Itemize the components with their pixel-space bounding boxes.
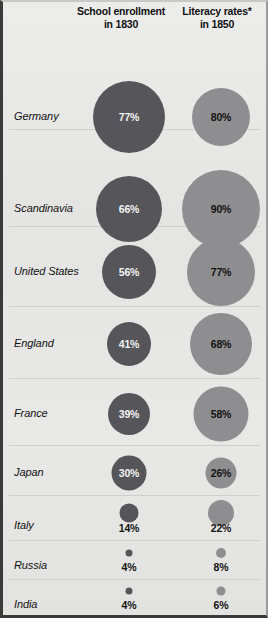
chart-row: India4%6% (3, 580, 266, 617)
enrollment-bubble (120, 504, 139, 523)
enrollment-value: 77% (119, 111, 139, 123)
chart-row: France39%58% (3, 379, 266, 446)
country-label: India (14, 598, 37, 610)
country-label: France (14, 407, 48, 419)
literacy-bubble (216, 548, 226, 558)
chart-row: United States56%77% (3, 227, 266, 307)
literacy-value: 26% (211, 467, 231, 479)
literacy-value: 77% (211, 266, 231, 278)
bubble-chart: School enrollment in 1830 Literacy rates… (0, 0, 268, 618)
literacy-value: 8% (214, 561, 229, 573)
country-label: Russia (14, 559, 47, 571)
chart-row: Japan30%26% (3, 446, 266, 496)
chart-row: Italy14%22% (3, 496, 266, 541)
column-header-school-enrollment-line2: in 1830 (75, 18, 167, 31)
literacy-value: 80% (211, 111, 231, 123)
enrollment-value: 30% (119, 467, 139, 479)
chart-row: England41%68% (3, 307, 266, 379)
literacy-value: 6% (214, 599, 229, 611)
country-label: Japan (14, 466, 43, 478)
enrollment-value: 39% (119, 408, 139, 420)
enrollment-value: 4% (122, 561, 137, 573)
enrollment-bubble (126, 550, 133, 557)
enrollment-value: 41% (119, 338, 139, 350)
literacy-bubble (217, 587, 226, 596)
column-header-literacy-rates-line1: Literacy rates* (182, 5, 251, 17)
country-label: United States (14, 265, 79, 277)
column-header-school-enrollment: School enrollment in 1830 (75, 5, 167, 30)
literacy-value: 90% (211, 203, 231, 215)
enrollment-value: 4% (122, 599, 137, 611)
country-label: Italy (14, 519, 34, 531)
country-label: England (14, 337, 54, 349)
literacy-value: 58% (211, 408, 231, 420)
column-header-literacy-rates: Literacy rates* in 1850 (171, 5, 263, 30)
literacy-value: 68% (211, 338, 231, 350)
chart-row: Scandinavia66%90% (3, 130, 266, 227)
chart-row: Germany77%80% (3, 36, 266, 130)
literacy-value: 22% (211, 522, 231, 534)
column-header-literacy-rates-line2: in 1850 (171, 18, 263, 31)
country-label: Germany (14, 110, 59, 122)
chart-header: School enrollment in 1830 Literacy rates… (3, 2, 266, 36)
enrollment-value: 66% (119, 203, 139, 215)
country-label: Scandinavia (14, 202, 73, 214)
chart-row: Russia4%8% (3, 541, 266, 580)
column-header-school-enrollment-line1: School enrollment (77, 5, 165, 17)
enrollment-value: 14% (119, 522, 139, 534)
enrollment-value: 56% (119, 266, 139, 278)
enrollment-bubble (126, 588, 133, 595)
